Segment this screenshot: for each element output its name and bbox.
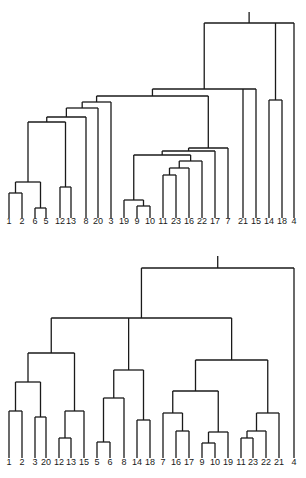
leaf-label: 1 bbox=[6, 457, 11, 467]
leaf-label: 18 bbox=[145, 457, 155, 467]
leaf-label: 15 bbox=[79, 457, 89, 467]
leaf-label: 10 bbox=[210, 457, 220, 467]
leaf-label: 7 bbox=[160, 457, 165, 467]
leaf-label: 20 bbox=[41, 457, 51, 467]
leaf-label: 2 bbox=[19, 457, 24, 467]
leaf-label: 6 bbox=[107, 457, 112, 467]
leaf-label: 14 bbox=[132, 457, 142, 467]
leaf-label: 23 bbox=[248, 457, 258, 467]
leaf-label: 21 bbox=[274, 457, 284, 467]
leaf-label: 9 bbox=[199, 457, 204, 467]
leaf-label: 17 bbox=[184, 457, 194, 467]
leaf-label: 8 bbox=[121, 457, 126, 467]
bottom-dendrogram: 1232012131556814187161791019112322214 bbox=[0, 239, 306, 478]
leaf-label: 3 bbox=[32, 457, 37, 467]
leaf-label: 11 bbox=[236, 457, 245, 467]
leaf-label: 4 bbox=[291, 457, 296, 467]
leaf-label: 13 bbox=[66, 457, 76, 467]
top-dendrogram: 1265121382031991011231622177211514184 bbox=[0, 0, 306, 239]
leaf-label: 12 bbox=[54, 457, 64, 467]
leaf-label: 22 bbox=[261, 457, 271, 467]
leaf-label: 5 bbox=[94, 457, 99, 467]
leaf-label: 19 bbox=[223, 457, 233, 467]
leaf-label: 16 bbox=[171, 457, 181, 467]
